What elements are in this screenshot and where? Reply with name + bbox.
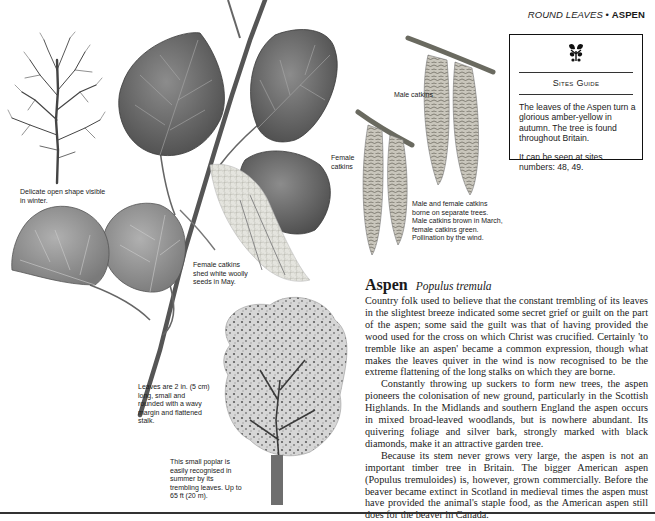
page-bottom-rule <box>0 512 655 514</box>
sites-guide-box: Sites Guide The leaves of the Aspen turn… <box>509 34 643 160</box>
article-body: Country folk used to believe that the co… <box>365 295 648 521</box>
species-heading: Aspen Populus tremula <box>365 276 492 294</box>
running-head-species: ASPEN <box>612 9 645 20</box>
common-name: Aspen <box>365 276 408 293</box>
sites-guide-title: Sites Guide <box>510 78 642 88</box>
divider <box>519 72 633 73</box>
sites-guide-locations: It can be seen at sites numbers: 48, 49. <box>519 152 636 173</box>
caption-leaves-note: Leaves are 2 in. (5 cm) long, small and … <box>138 383 210 426</box>
caption-female-catkins: Female catkins <box>331 154 367 171</box>
male-catkins-illustration <box>408 38 493 195</box>
winter-tree-illustration <box>8 32 105 183</box>
summer-tree-illustration <box>224 297 347 505</box>
female-catkins-illustration <box>358 112 412 255</box>
running-head-section: ROUND LEAVES <box>528 9 603 20</box>
divider <box>519 94 633 95</box>
caption-catkins-note: Male and female catkins borne on separat… <box>412 200 504 243</box>
running-head-separator: • <box>606 9 609 20</box>
latin-name: Populus tremula <box>416 280 492 292</box>
oak-leaf-emblem-icon <box>510 41 642 63</box>
running-head: ROUND LEAVES • ASPEN <box>528 9 645 20</box>
article-paragraph: Because its stem never grows very large,… <box>365 450 648 521</box>
sites-guide-description: The leaves of the Aspen turn a glorious … <box>519 102 636 144</box>
caption-winter-tree: Delicate open shape visible in winter. <box>20 188 110 205</box>
caption-male-catkins: Male catkins <box>394 91 434 100</box>
article-paragraph: Country folk used to believe that the co… <box>365 295 648 378</box>
caption-female-seeds: Female catkins shed white woolly seeds i… <box>193 261 255 287</box>
article-paragraph: Constantly throwing up suckers to form n… <box>365 378 648 449</box>
caption-summer-tree: This small poplar is easily recognised i… <box>170 458 242 501</box>
